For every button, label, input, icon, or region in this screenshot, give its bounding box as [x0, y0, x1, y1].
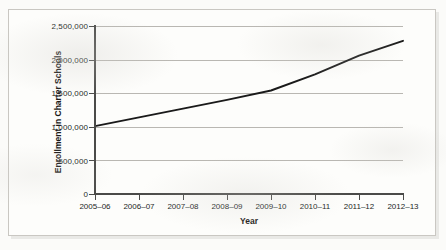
- y-tick-label-2000000: 2,000,000: [28, 56, 88, 65]
- y-tick-label-500000: 500,000: [28, 157, 88, 166]
- y-tick-label-1000000: 1,000,000: [28, 123, 88, 132]
- x-axis-line: [94, 193, 404, 195]
- x-tick-label-2012-13: 2012–13: [376, 202, 430, 211]
- y-tick-label-1500000: 1,500,000: [28, 89, 88, 98]
- x-tick-mark-0: [95, 195, 96, 200]
- y-tick-label-0: 0: [28, 190, 88, 199]
- x-tick-mark-5: [315, 195, 316, 200]
- series-line-chart: [95, 26, 403, 194]
- figure-root: Enrollment in Charter Schools 2,500,000 …: [0, 0, 446, 250]
- x-tick-mark-3: [227, 195, 228, 200]
- y-tick-label-2500000: 2,500,000: [28, 22, 88, 31]
- x-tick-mark-4: [271, 195, 272, 200]
- x-axis-title: Year: [95, 216, 403, 226]
- x-tick-mark-1: [139, 195, 140, 200]
- x-tick-mark-6: [359, 195, 360, 200]
- x-tick-mark-7: [403, 195, 404, 200]
- series-line-enrollment: [95, 41, 403, 126]
- plot-area: [95, 26, 403, 194]
- y-axis-tick-labels: 2,500,000 2,000,000 1,500,000 1,000,000 …: [24, 0, 88, 250]
- y-axis-line: [94, 25, 96, 195]
- x-tick-mark-2: [183, 195, 184, 200]
